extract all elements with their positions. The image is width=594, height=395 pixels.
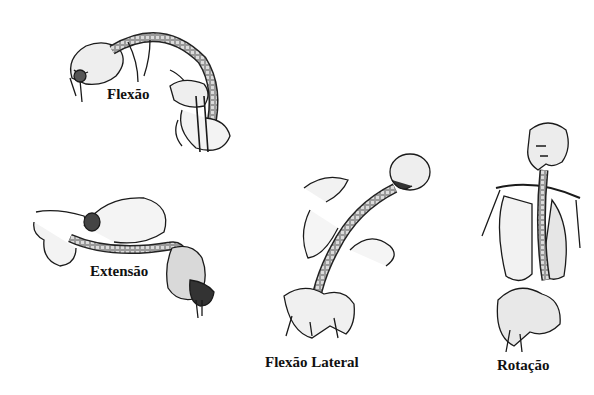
rotation-figure — [482, 123, 580, 352]
spine-movements-illustration — [0, 0, 594, 395]
label-extension: Extensão — [90, 263, 148, 280]
flexion-figure — [70, 37, 230, 152]
label-rotation: Rotação — [497, 357, 550, 374]
lateral-flexion-figure — [284, 154, 430, 338]
label-flexion: Flexão — [107, 86, 150, 103]
extension-figure — [34, 198, 214, 318]
label-lateral-flexion: Flexão Lateral — [265, 354, 359, 371]
